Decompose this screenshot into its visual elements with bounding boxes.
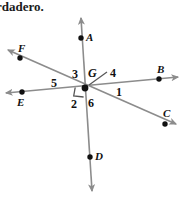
point-label-d: D: [95, 150, 103, 162]
point-dot-c: [162, 121, 167, 126]
point-dot-d: [87, 154, 92, 159]
point-label-b: B: [157, 63, 164, 75]
point-dot-a: [78, 35, 83, 40]
point-dot-b: [156, 76, 161, 81]
page-canvas: rdadero. A B C D E F G 1 2: [0, 0, 183, 197]
angle-label-5: 5: [51, 76, 57, 91]
angle-label-3: 3: [72, 67, 78, 82]
angle-label-1: 1: [116, 85, 122, 100]
point-label-f: F: [18, 42, 25, 54]
angle-label-6: 6: [88, 96, 94, 111]
point-label-c: C: [163, 107, 170, 119]
point-dot-f: [17, 55, 22, 60]
vertex-dot-g: [82, 85, 89, 92]
line-fc: [8, 50, 176, 124]
vertex-label-g: G: [88, 66, 97, 81]
angle-label-2: 2: [71, 97, 77, 112]
angle-label-4: 4: [110, 66, 116, 81]
point-label-e: E: [17, 96, 24, 108]
point-dot-e: [19, 89, 24, 94]
point-label-a: A: [86, 31, 93, 43]
